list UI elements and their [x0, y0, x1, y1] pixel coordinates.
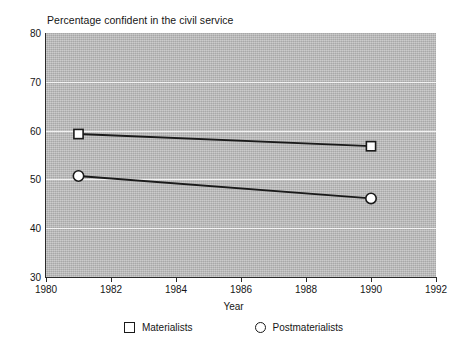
x-tick-mark-1992: [436, 278, 437, 282]
y-tick-label-80: 80: [11, 28, 41, 39]
x-tick-label-1984: 1984: [153, 284, 199, 295]
series-materialists: [74, 129, 376, 150]
data-point-circle-marker: [73, 171, 83, 181]
x-tick-label-1986: 1986: [218, 284, 264, 295]
x-tick-label-1982: 1982: [88, 284, 134, 295]
x-tick-mark-1982: [111, 278, 112, 282]
x-tick-label-1980: 1980: [23, 284, 69, 295]
x-tick-label-1990: 1990: [348, 284, 394, 295]
x-tick-label-1988: 1988: [283, 284, 329, 295]
legend-item-materialists[interactable]: Materialists: [124, 322, 193, 333]
x-tick-mark-1988: [306, 278, 307, 282]
x-tick-mark-1984: [176, 278, 177, 282]
legend-label: Postmaterialists: [273, 322, 344, 333]
y-tick-label-50: 50: [11, 174, 41, 185]
x-tick-mark-1980: [46, 278, 47, 282]
chart-figure: Percentage confident in the civil servic…: [0, 0, 467, 355]
x-axis-title: Year: [0, 301, 467, 312]
y-tick-label-60: 60: [11, 125, 41, 136]
circle-marker-icon: [255, 322, 266, 333]
series-line-postmaterialists: [79, 176, 372, 198]
y-tick-label-70: 70: [11, 76, 41, 87]
data-point-square-marker: [366, 142, 375, 151]
y-tick-label-40: 40: [11, 223, 41, 234]
series-postmaterialists: [73, 171, 376, 204]
chart-legend: MaterialistsPostmaterialists: [0, 322, 467, 333]
x-tick-mark-1990: [371, 278, 372, 282]
x-tick-label-1992: 1992: [413, 284, 459, 295]
chart-title: Percentage confident in the civil servic…: [47, 14, 233, 26]
square-marker-icon: [124, 322, 135, 333]
y-tick-label-30: 30: [11, 272, 41, 283]
legend-label: Materialists: [142, 322, 193, 333]
legend-item-postmaterialists[interactable]: Postmaterialists: [255, 322, 344, 333]
y-axis-line: [45, 33, 46, 278]
plot-area: [46, 33, 436, 277]
data-point-circle-marker: [366, 193, 376, 203]
x-tick-mark-1986: [241, 278, 242, 282]
series-layer: [46, 33, 436, 277]
series-line-materialists: [79, 134, 372, 146]
data-point-square-marker: [74, 129, 83, 138]
